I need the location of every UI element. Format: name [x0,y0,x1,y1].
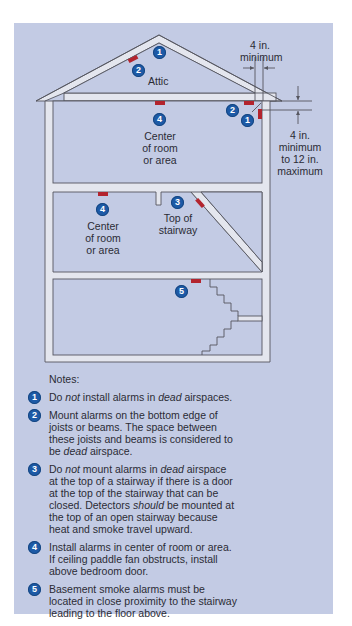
alarm-corner-joist [244,101,254,105]
badge-upper-center: 4 [153,113,166,126]
note-number-badge: 3 [28,463,41,476]
room-basement-left [53,279,262,355]
note-item: 3Do not mount alarms in dead airspace at… [28,463,238,535]
badge-lower-center: 4 [96,203,109,216]
note-number-badge: 5 [28,583,41,596]
dimension-top-label: 4 in. minimum [240,39,280,63]
lower-center-label: Center of room or area [80,220,126,256]
notes-title: Notes: [49,373,238,385]
note-item: 1Do not install alarms in dead airspaces… [28,391,238,403]
stairway-label: Top of stairway [155,212,201,236]
badge-corner-joist: 2 [226,104,239,117]
note-number-badge: 4 [28,541,41,554]
attic-label: Attic [148,75,168,87]
upper-center-label: Center of room or area [137,130,183,166]
note-text: Do not install alarms in dead airspaces. [49,391,232,403]
notes-section: Notes: 1Do not install alarms in dead ai… [28,373,238,625]
attic-floor [64,93,276,101]
note-number-badge: 2 [28,409,41,422]
basement-landing [238,316,262,321]
badge-corner-dead: 1 [241,114,254,127]
note-text: Install alarms in center of room or area… [49,541,232,577]
note-item: 5Basement smoke alarms must be located i… [28,583,238,619]
note-text: Do not mount alarms in dead airspace at … [49,463,234,535]
note-item: 2Mount alarms on the bottom edge of jois… [28,409,238,457]
alarm-basement [191,279,201,283]
badge-attic-slope: 2 [132,64,145,77]
note-text: Mount alarms on the bottom edge of joist… [49,409,233,457]
note-item: 4Install alarms in center of room or are… [28,541,238,577]
note-text: Basement smoke alarms must be located in… [49,583,237,619]
badge-stair-top: 3 [171,196,184,209]
alarm-corner-wall [258,109,262,119]
badge-basement: 5 [175,285,188,298]
alarm-lower-center [98,192,108,196]
badge-attic-peak: 1 [153,46,166,59]
notes-list: 1Do not install alarms in dead airspaces… [28,391,238,619]
note-number-badge: 1 [28,391,41,404]
dimension-right-label: 4 in. minimum to 12 in. maximum [276,129,324,177]
alarm-upper-center [155,101,165,105]
